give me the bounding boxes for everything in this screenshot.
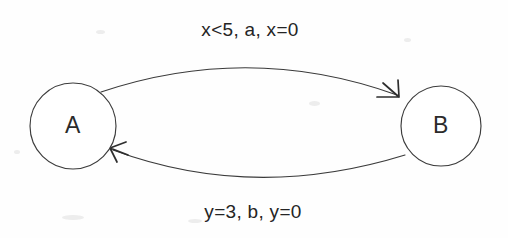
transition-curve-a-to-b — [101, 68, 397, 95]
state-label-a: A — [65, 112, 81, 138]
arrowhead-into-a — [110, 142, 128, 162]
diagram-svg: A B x<5, a, x=0 y=3, b, y=0 — [0, 0, 508, 238]
state-diagram-canvas: A B x<5, a, x=0 y=3, b, y=0 — [0, 0, 508, 238]
transition-label-b-to-a: y=3, b, y=0 — [204, 201, 301, 222]
arrowhead-into-b — [377, 80, 399, 97]
transition-label-a-to-b: x<5, a, x=0 — [201, 19, 298, 40]
transition-curve-b-to-a — [113, 150, 405, 177]
state-label-b: B — [433, 112, 449, 138]
